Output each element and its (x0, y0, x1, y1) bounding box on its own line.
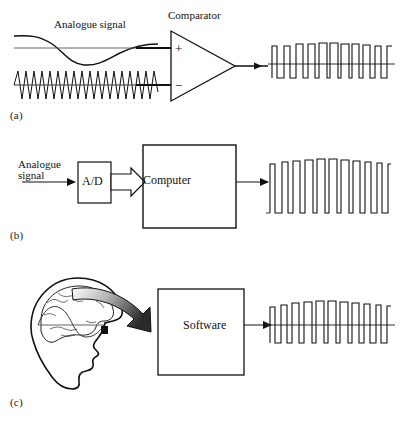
arrow-right-icon (260, 178, 269, 186)
comparator-minus-sign: − (175, 78, 182, 94)
panel-b-graphics (0, 130, 405, 255)
block-arrow-right-icon (111, 168, 145, 196)
panel-label-b: (b) (10, 229, 23, 241)
pwm-square-wave-icon (270, 301, 391, 343)
panel-a-graphics (0, 0, 405, 130)
eye-icon (101, 326, 108, 334)
panel-label-a: (a) (10, 109, 23, 121)
software-box-icon (158, 289, 244, 375)
panel-label-c: (c) (10, 396, 23, 408)
computer-box-icon (143, 145, 236, 228)
arrow-right-icon (254, 63, 262, 70)
pwm-generation-figure: Analogue signal Comparator + − (a (0, 0, 405, 428)
panel-a: Analogue signal Comparator + − (a (0, 0, 405, 130)
comparator-plus-sign: + (175, 41, 182, 57)
pwm-square-wave-icon (272, 43, 392, 78)
panel-c-graphics (0, 255, 405, 428)
panel-b: Analogue signal A/D Computer (b) (0, 130, 405, 255)
pwm-square-wave-icon (270, 159, 391, 213)
sine-wave-icon (14, 36, 158, 65)
panel-c: Software (0, 255, 405, 428)
ad-converter-box-icon (78, 162, 111, 203)
arrow-right-icon (67, 178, 76, 186)
sine-wave-icon (38, 307, 104, 337)
